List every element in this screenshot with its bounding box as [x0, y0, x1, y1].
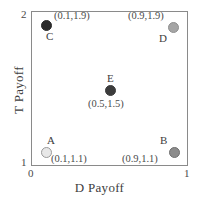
- data-point-d-label: D: [159, 32, 167, 44]
- data-point-d[interactable]: [168, 22, 179, 33]
- plot-area: C (0.1,1.9) D (0.9,1.9) E (0.5,1.5) A (0…: [31, 11, 188, 166]
- data-point-c-coord: (0.1,1.9): [54, 10, 90, 21]
- y-axis-tick-1: 1: [21, 156, 27, 168]
- data-point-b[interactable]: [169, 147, 180, 158]
- y-axis-title: T Payoff: [11, 30, 27, 150]
- data-point-d-coord: (0.9,1.9): [128, 10, 164, 21]
- x-axis-title: D Payoff: [0, 180, 199, 196]
- data-point-a-coord: (0.1,1.1): [51, 153, 87, 164]
- x-axis-tick-1: 1: [184, 167, 190, 179]
- data-point-b-coord: (0.9,1.1): [122, 153, 158, 164]
- data-point-a-label: A: [47, 134, 55, 146]
- data-point-b-label: B: [160, 134, 167, 146]
- data-point-e-coord: (0.5,1.5): [88, 98, 124, 109]
- x-axis-tick-0: 0: [28, 167, 34, 179]
- y-axis-tick-2: 2: [21, 8, 27, 20]
- scatter-chart: C (0.1,1.9) D (0.9,1.9) E (0.5,1.5) A (0…: [0, 0, 199, 199]
- data-point-e[interactable]: [105, 85, 116, 96]
- data-point-e-label: E: [107, 72, 114, 84]
- data-point-c-label: C: [46, 30, 53, 42]
